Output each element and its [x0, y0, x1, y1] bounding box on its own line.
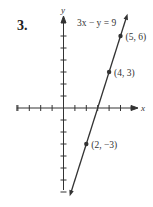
point-label: (4, 3)	[114, 68, 135, 79]
y-axis-arrow-icon	[61, 16, 66, 23]
line-arrow-up-icon	[124, 14, 128, 20]
point-label: (5, 6)	[126, 32, 147, 43]
equation-label: 3x − y = 9	[77, 18, 116, 28]
y-axis-label: y	[60, 5, 65, 15]
coordinate-plane: (5, 6)(4, 3)(2, −3) x y 3x − y = 9	[0, 0, 153, 207]
x-axis-arrow-icon	[131, 106, 138, 111]
data-point	[84, 142, 88, 146]
data-point	[107, 70, 111, 74]
graph-line	[71, 17, 127, 193]
line-arrow-down-icon	[69, 190, 73, 196]
x-axis-label: x	[140, 103, 145, 113]
point-label: (2, −3)	[91, 140, 117, 151]
data-point	[118, 34, 122, 38]
